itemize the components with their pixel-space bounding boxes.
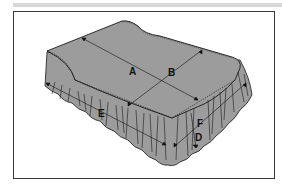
label-E: E — [98, 108, 105, 119]
label-F: F — [197, 118, 203, 129]
label-B: B — [168, 67, 175, 78]
label-A: A — [129, 66, 136, 77]
label-D: D — [195, 132, 202, 143]
bedspread-diagram: A B E F D — [0, 0, 282, 189]
